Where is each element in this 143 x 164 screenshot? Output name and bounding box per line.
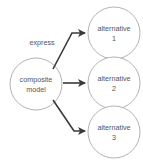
alternative-1-label-line1: alternative [97,24,130,33]
alternative-2-label-line2: 2 [112,84,116,93]
node-alternative-2[interactable]: alternative 2 [88,57,140,109]
composite-model-label-line1: composite [20,75,53,84]
alternative-2-label-line1: alternative [97,74,130,83]
edge-composite-to-alternative-2[interactable] [63,79,86,87]
diagram-canvas: composite model alternative 1 alternativ… [0,0,143,164]
node-alternative-1[interactable]: alternative 1 [88,7,140,59]
alternative-3-label-line2: 3 [112,133,116,142]
alternative-3-label-line1: alternative [97,123,130,132]
edge-1-path [53,33,85,69]
alternative-1-label-line2: 1 [112,34,116,43]
diagram-svg: composite model alternative 1 alternativ… [0,0,143,164]
composite-model-label-line2: model [26,85,46,94]
edge-composite-to-alternative-1[interactable] [53,29,86,69]
node-alternative-3[interactable]: alternative 3 [88,106,140,158]
edge-composite-to-alternative-3[interactable] [53,100,86,135]
edge-3-path [53,100,85,131]
edge-label-express: express [29,38,55,47]
